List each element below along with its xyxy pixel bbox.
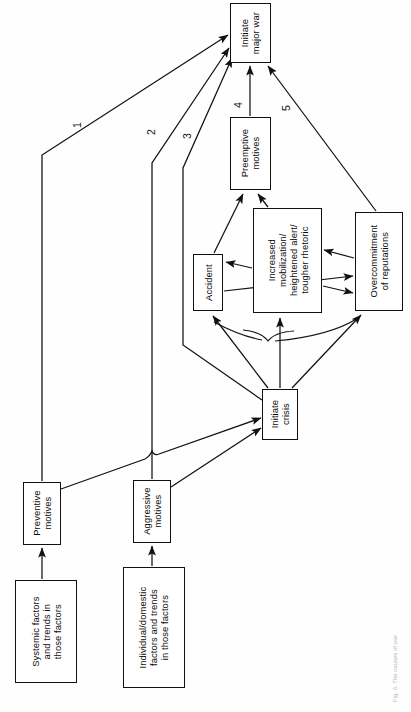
figure-caption: Fig. 6. The causes of war — [392, 635, 398, 702]
node-label: Individual/domestic factors and trends i… — [137, 587, 170, 669]
edge-label-2: 2 — [145, 129, 157, 135]
node-label: Increased mobilization/ heightened alert… — [265, 225, 309, 297]
edge-overcommitment-to-mobilization — [324, 250, 354, 258]
node-label: Accident — [202, 264, 213, 301]
node-initiate-crisis[interactable]: Initiate crisis — [262, 389, 298, 440]
node-increased-mobilization[interactable]: Increased mobilization/ heightened alert… — [253, 208, 322, 313]
edge-crisis-to-overcommitment — [292, 315, 361, 388]
edge-aggressive-to-crisis — [171, 428, 261, 487]
edge-label-4: 4 — [232, 102, 244, 108]
node-label: Initiate major war — [239, 12, 261, 54]
node-overcommitment-of-reputations[interactable]: Overcommitment of reputations — [355, 212, 403, 311]
node-accident[interactable]: Accident — [193, 254, 223, 311]
edge-label-1: 1 — [71, 122, 83, 128]
node-preventive-motives[interactable]: Preventive motives — [23, 482, 61, 545]
node-label: Preemptive motives — [239, 129, 261, 177]
edge-accident-to-preemptive — [214, 194, 243, 253]
edge-accident-curve — [214, 322, 262, 340]
node-preemptive-motives[interactable]: Preemptive motives — [230, 117, 271, 190]
edge-label-5: 5 — [280, 105, 292, 111]
node-systemic-factors[interactable]: Systemic factors and trends in those fac… — [15, 580, 77, 683]
node-label: Preventive motives — [31, 491, 53, 536]
node-label: Aggressive motives — [141, 488, 163, 535]
edge-overcommit-curve — [275, 318, 358, 341]
edge-mobilization-to-overcommitment — [323, 286, 353, 293]
edge-mobilization-to-accident — [226, 262, 252, 268]
edge-crisis-to-accident — [213, 316, 268, 388]
node-aggressive-motives[interactable]: Aggressive motives — [133, 480, 171, 543]
diagram-canvas: Initiate major war Preemptive motives Ac… — [0, 0, 411, 712]
node-individual-domestic-factors[interactable]: Individual/domestic factors and trends i… — [123, 567, 185, 688]
node-label: Systemic factors and trends in those fac… — [29, 596, 62, 666]
edge-overcommitment-to-war — [268, 66, 376, 211]
edge-mobilization-to-preemptive — [258, 194, 268, 207]
edge-label-3: 3 — [181, 133, 193, 139]
edge-preventive-to-crisis — [61, 418, 261, 489]
node-label: Overcommitment of reputations — [368, 225, 390, 298]
node-label: Initiate crisis — [269, 400, 291, 428]
node-initiate-major-war[interactable]: Initiate major war — [230, 3, 271, 63]
